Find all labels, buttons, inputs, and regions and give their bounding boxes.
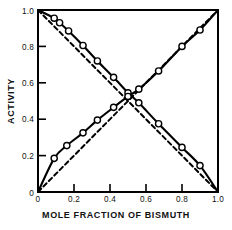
x-tick-label: 0.2 xyxy=(68,195,80,204)
data-point-marker xyxy=(51,15,57,21)
x-axis-title: MOLE FRACTION OF BISMUTH xyxy=(0,210,232,220)
data-point-marker xyxy=(197,27,203,33)
x-tick-label: 0.6 xyxy=(140,195,152,204)
y-tick-label: 0 xyxy=(29,189,34,198)
data-point-marker xyxy=(64,142,70,148)
data-point-marker xyxy=(111,104,117,110)
x-tick-labels: 0 0.2 0.4 0.6 0.8 1.0 xyxy=(36,195,225,204)
data-point-marker xyxy=(136,86,142,92)
y-tick-label: 0.2 xyxy=(22,152,34,161)
y-tick-label: 0.8 xyxy=(22,43,34,52)
data-point-marker xyxy=(94,117,100,123)
y-axis-title: ACTIVITY xyxy=(6,61,16,141)
data-point-marker xyxy=(94,58,100,64)
data-point-marker xyxy=(80,42,86,48)
y-tick-label: 0.6 xyxy=(22,79,34,88)
data-point-marker xyxy=(66,28,72,34)
x-tick-label: 0.4 xyxy=(104,195,116,204)
data-point-marker xyxy=(179,144,185,150)
data-point-marker xyxy=(111,74,117,80)
data-point-marker xyxy=(156,121,162,127)
data-point-marker xyxy=(179,43,185,49)
data-point-marker xyxy=(156,68,162,74)
chart-canvas: 0 0.2 0.4 0.6 0.8 1.0 0 0.2 0.4 0.6 0.8 … xyxy=(0,0,232,230)
activity-mole-fraction-chart: 0 0.2 0.4 0.6 0.8 1.0 0 0.2 0.4 0.6 0.8 … xyxy=(0,0,232,230)
x-tick-label: 0 xyxy=(36,195,41,204)
x-tick-label: 1.0 xyxy=(212,195,224,204)
y-tick-label: 0.4 xyxy=(22,115,34,124)
x-tick-label: 0.8 xyxy=(176,195,188,204)
data-point-marker xyxy=(197,163,203,169)
y-tick-labels: 0 0.2 0.4 0.6 0.8 1.0 xyxy=(22,7,34,198)
data-point-marker xyxy=(125,93,131,99)
data-point-marker xyxy=(51,155,57,161)
data-point-marker xyxy=(57,20,63,26)
data-point-marker xyxy=(136,100,142,106)
data-point-marker xyxy=(80,130,86,136)
y-tick-label: 1.0 xyxy=(22,7,34,16)
